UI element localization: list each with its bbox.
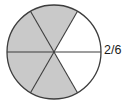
fraction-label: 2/6: [104, 43, 121, 57]
fraction-circle-figure: 2/6: [0, 0, 131, 105]
